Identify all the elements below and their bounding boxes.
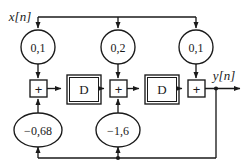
figure-canvas: x[n] y[n] 0,1 0,2 0,1 −0,68 −1,6 D D + +… bbox=[0, 0, 252, 168]
multiplier-a1-label: −0,68 bbox=[24, 124, 52, 138]
block-diagram: x[n] y[n] 0,1 0,2 0,1 −0,68 −1,6 D D + +… bbox=[0, 0, 252, 168]
multiplier-b1-label: 0,2 bbox=[111, 41, 126, 55]
input-bus bbox=[38, 17, 196, 28]
multiplier-a2-label: −1,6 bbox=[107, 124, 129, 138]
output-signal-label: y[n] bbox=[211, 68, 235, 83]
adder-sum1-label: + bbox=[35, 82, 43, 97]
adder-sum3-label: + bbox=[193, 82, 201, 97]
multiplier-b0-label: 0,1 bbox=[31, 41, 46, 55]
delay-d1-label: D bbox=[79, 82, 88, 97]
adder-sum2-label: + bbox=[115, 82, 123, 97]
delay-d2-label: D bbox=[157, 82, 166, 97]
input-signal-label: x[n] bbox=[8, 9, 31, 24]
multiplier-b2-label: 0,1 bbox=[189, 41, 204, 55]
